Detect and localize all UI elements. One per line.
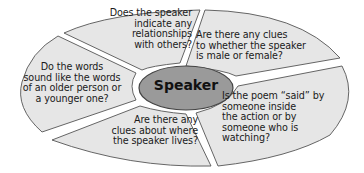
segment-text-gender: Are there any clues to whether the speak… <box>196 30 336 62</box>
segment-text-relationships: Does the speaker indicate any relationsh… <box>102 8 192 50</box>
segment-text-location: Are there any clues about where the spea… <box>98 115 198 147</box>
center-label: Speaker <box>141 77 231 93</box>
segment-text-age: Do the words sound like the words of an … <box>22 62 122 104</box>
segment-text-action: Is the poem “said” by someone inside the… <box>222 91 342 144</box>
